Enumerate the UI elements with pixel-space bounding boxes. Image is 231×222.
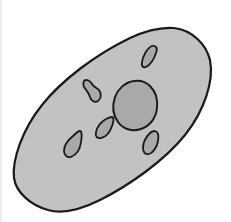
cell-diagram <box>0 0 231 222</box>
nucleus <box>113 81 157 130</box>
